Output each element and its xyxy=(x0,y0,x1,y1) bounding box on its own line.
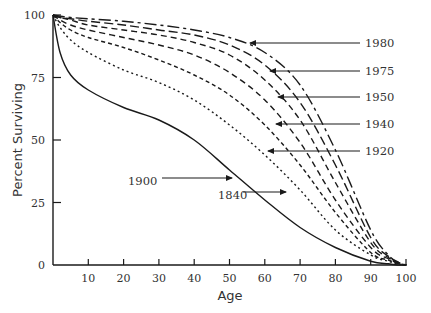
x-tick-label: 100 xyxy=(396,272,417,285)
y-tick-label: 100 xyxy=(24,9,45,22)
curve-1940 xyxy=(53,15,406,265)
x-tick-label: 20 xyxy=(117,272,131,285)
curve-1975 xyxy=(53,15,406,265)
y-tick-label: 0 xyxy=(38,259,45,272)
curve-1840 xyxy=(53,15,406,265)
x-tick-label: 30 xyxy=(152,272,166,285)
x-tick-label: 40 xyxy=(187,272,201,285)
series-labels: 1840190019201940195019751980 xyxy=(128,36,394,202)
x-tick-label: 90 xyxy=(364,272,378,285)
x-tick-label: 80 xyxy=(328,272,342,285)
x-axis-title: Age xyxy=(217,288,242,303)
y-ticks: 0255075100 xyxy=(24,9,61,272)
series-label-1980: 1980 xyxy=(365,36,394,50)
x-tick-label: 70 xyxy=(293,272,307,285)
series-label-1920: 1920 xyxy=(365,144,394,158)
y-tick-label: 50 xyxy=(31,134,45,147)
series-label-1840: 1840 xyxy=(218,188,247,202)
series-label-1950: 1950 xyxy=(365,90,394,104)
y-tick-label: 25 xyxy=(31,197,45,210)
x-tick-label: 50 xyxy=(223,272,237,285)
curve-1900 xyxy=(53,15,406,265)
curve-1950 xyxy=(53,15,406,265)
y-tick-label: 75 xyxy=(31,72,45,85)
survival-chart: 1840190019201940195019751980 0255075100 … xyxy=(0,0,431,313)
y-axis-title: Percent Surviving xyxy=(10,83,25,197)
curve-1920 xyxy=(53,15,406,265)
series-label-1975: 1975 xyxy=(365,64,394,78)
plot-lines xyxy=(53,15,406,265)
series-label-1940: 1940 xyxy=(365,117,394,131)
x-tick-label: 60 xyxy=(258,272,272,285)
series-label-1900: 1900 xyxy=(128,174,157,188)
series-arrows xyxy=(162,43,360,192)
x-tick-label: 10 xyxy=(81,272,95,285)
curve-1980 xyxy=(53,15,406,265)
x-ticks: 102030405060708090100 xyxy=(81,259,416,285)
